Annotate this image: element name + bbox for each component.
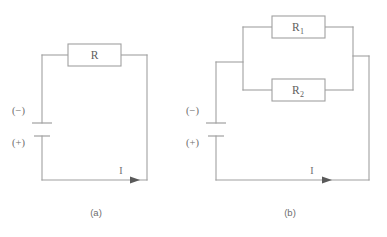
resistor-a-label: R	[91, 49, 99, 61]
resistor-b2-subscript: 2	[300, 90, 304, 99]
current-b-arrow-icon	[322, 177, 332, 184]
caption-b: (b)	[284, 207, 296, 218]
caption-a: (a)	[90, 207, 102, 218]
battery-b-positive-label: (+)	[186, 137, 199, 149]
current-a-label: I	[119, 165, 122, 176]
resistor-b1-label: R	[292, 21, 300, 33]
panel-a: R (−) (+) I (a)	[12, 44, 147, 218]
battery-a-positive-label: (+)	[12, 137, 25, 149]
current-b-label: I	[310, 165, 313, 176]
panel-b: R 1 R 2 (−) (+) I (b)	[186, 16, 369, 218]
circuit-canvas: R (−) (+) I (a)	[0, 0, 387, 237]
resistor-b1-subscript: 1	[300, 27, 304, 36]
battery-a-negative-label: (−)	[12, 105, 25, 117]
current-a-arrow-icon	[130, 177, 140, 184]
resistor-b2-label: R	[292, 84, 300, 96]
battery-b-negative-label: (−)	[186, 105, 199, 117]
circuit-figure: R (−) (+) I (a)	[0, 0, 387, 237]
